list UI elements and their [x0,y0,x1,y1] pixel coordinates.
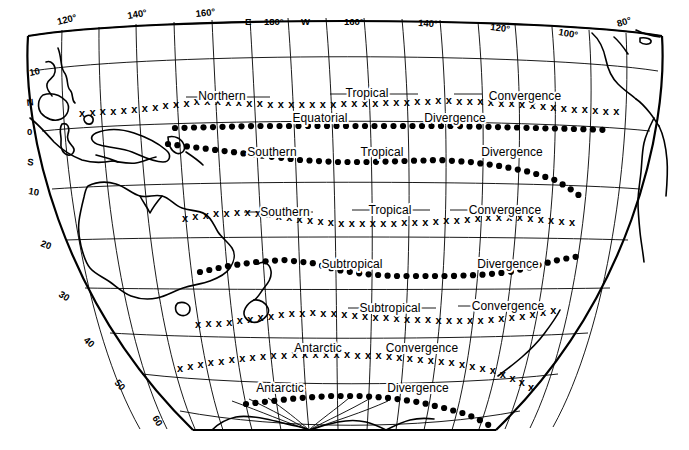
zone-marker-x: x [183,97,190,109]
zone-marker-dot [347,393,353,399]
zone-marker-dot [505,165,511,171]
zone-marker-dot [392,158,398,164]
lon-label-120w: 120° [490,21,511,34]
coastline-south-america-east [659,126,667,196]
zone-marker-x: x [446,314,453,326]
zone-marker-x: x [278,98,285,110]
zone-marker-dot [423,401,429,407]
zone-marker-dot [366,394,372,400]
zone-marker-dot [470,272,476,278]
zone-marker-dot [234,262,240,268]
zone-marker-x: x [267,98,274,110]
zone-band-northern-tropical-convergence: xxxxxxxxxxxxxxxxxxxxxxxxxxxxxxxxxxxxxxxx… [79,86,620,119]
zone-marker-dot [222,148,228,154]
zone-marker-dot [338,393,344,399]
zone-marker-dot [523,125,529,131]
zone-marker-dot [300,395,306,401]
zone-marker-dot [310,260,316,266]
zone-marker-x: x [131,103,138,115]
zone-marker-dot [489,271,495,277]
zone-marker-dot [181,125,187,131]
zone-marker-dot [432,273,438,279]
zone-marker-x: x [121,104,128,116]
zone-marker-dot [545,260,551,266]
zone-marker-x: x [456,95,463,107]
zone-marker-dot [394,273,400,279]
meridian-170e [250,19,281,430]
zone-marker-x: x [480,362,487,374]
zone-marker-x: x [213,207,220,219]
zone-marker-dot [495,124,501,130]
zone-marker-dot [257,123,263,129]
zone-label-l1_c: Convergence [489,89,562,103]
zone-marker-dot [174,142,180,148]
zone-marker-dot [267,123,273,129]
zone-marker-x: x [182,212,189,224]
parallel-10s [52,182,640,189]
zone-marker-x: x [425,313,432,325]
zone-marker-x: x [330,98,337,110]
zone-marker-x: x [414,95,421,107]
zone-marker-x: x [438,355,445,367]
zone-marker-dot [335,159,341,165]
zone-marker-x: x [208,356,215,368]
zone-marker-x: x [558,215,565,227]
zone-marker-x: x [500,368,507,380]
zone-marker-x: x [250,351,257,363]
zone-marker-x: x [359,217,366,229]
lat-label-30s: 30 [57,288,72,303]
zone-marker-dot [352,123,358,129]
zone-marker-x: x [412,216,419,228]
zone-label-l1_a: Northern [198,89,246,103]
zone-label-l4_b: Tropical [368,203,411,217]
zone-marker-x: x [268,310,275,322]
zone-marker-dot [485,124,491,130]
zone-marker-x: x [456,314,463,326]
zone-marker-dot [515,167,521,173]
zone-label-l1_b: Tropical [345,86,388,100]
lat-label-n: N [26,96,34,108]
zone-marker-dot [458,158,464,164]
lon-label-100w: 100° [558,26,579,40]
lat-label-equator: 0 [27,126,32,137]
zone-marker-dot [300,259,306,265]
zone-marker-dot [477,160,483,166]
zone-marker-dot [409,123,415,129]
zone-marker-x: x [344,348,351,360]
zone-marker-x: x [435,94,442,106]
zone-marker-dot [206,267,212,273]
zone-marker-dot [413,273,419,279]
zone-marker-dot [244,260,250,266]
zone-marker-dot [216,265,222,271]
zone-marker-dot [468,413,474,419]
parallel-40s [110,333,588,338]
zone-marker-dot [319,394,325,400]
zone-marker-x: x [613,105,620,117]
zone-marker-dot [263,258,269,264]
zone-marker-x: x [226,316,233,328]
zone-marker-dot [354,159,360,165]
lat-label-10n: 10 [28,65,41,78]
zone-marker-dot [316,158,322,164]
zone-marker-x: x [550,101,557,113]
zone-marker-x: x [142,102,149,114]
coastline-borneo [39,94,69,120]
zone-marker-dot [450,407,456,413]
zone-marker-x: x [177,362,184,374]
coastline-tasmania [176,302,190,315]
zone-marker-dot [554,257,560,263]
zone-marker-dot [191,124,197,130]
zone-layer: xxxxxxxxxxxxxxxxxxxxxxxxxxxxxxxxxxxxxxxx… [79,86,620,428]
coastline-caribbean-island [640,38,651,45]
zone-marker-dot [373,159,379,165]
zone-marker-dot [563,255,569,261]
zone-marker-dot [240,150,246,156]
zone-label-l6_b: Convergence [472,299,545,313]
zone-marker-x: x [100,105,107,117]
meridian-120e [62,30,140,429]
zone-marker-x: x [467,95,474,107]
zone-marker-dot [200,124,206,130]
zone-marker-x: x [281,349,288,361]
zone-marker-x: x [349,217,356,229]
zone-marker-x: x [192,210,199,222]
